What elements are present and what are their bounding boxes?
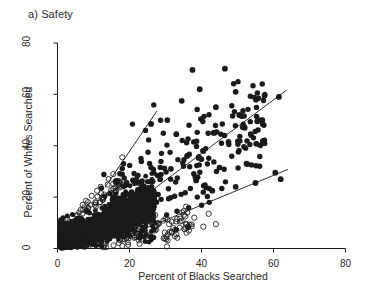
data-point-filled — [173, 131, 179, 137]
data-point-filled — [120, 166, 125, 171]
data-point-filled — [184, 153, 190, 159]
data-point-filled — [161, 130, 166, 135]
data-point-filled — [108, 222, 113, 227]
data-point-filled — [257, 154, 262, 159]
data-point-filled — [121, 161, 126, 166]
data-point-filled — [223, 179, 228, 184]
data-point-filled — [255, 127, 260, 132]
data-point-filled — [235, 165, 240, 170]
data-point-filled — [61, 231, 66, 236]
data-point-filled — [195, 130, 200, 135]
data-point-filled — [250, 83, 255, 88]
data-point-filled — [127, 163, 132, 168]
data-point-filled — [158, 172, 163, 177]
data-point-filled — [244, 138, 249, 143]
data-point-filled — [68, 235, 73, 240]
data-point-filled — [242, 125, 248, 131]
data-point-open — [192, 215, 197, 220]
data-point-filled — [195, 194, 200, 199]
data-point-filled — [219, 141, 224, 146]
data-point-filled — [93, 213, 98, 218]
data-point-filled — [154, 199, 159, 204]
data-point-filled — [173, 179, 178, 184]
data-point-filled — [158, 197, 163, 202]
data-point-filled — [145, 179, 150, 184]
figure-panel: a) Safety Percent of Whites Searched Per… — [0, 0, 371, 291]
data-point-filled — [260, 81, 265, 86]
data-point-filled — [126, 192, 131, 197]
data-point-filled — [200, 119, 205, 124]
data-point-filled — [127, 215, 132, 220]
data-point-filled — [245, 107, 250, 112]
data-point-filled — [236, 112, 242, 118]
data-point-filled — [121, 192, 126, 197]
data-point-filled — [254, 105, 259, 110]
data-point-filled — [193, 178, 199, 184]
data-point-filled — [168, 166, 174, 172]
data-point-filled — [261, 98, 266, 103]
data-point-filled — [262, 93, 268, 99]
data-point-filled — [139, 159, 144, 164]
data-point-filled — [140, 210, 145, 215]
data-point-filled — [159, 151, 164, 156]
data-point-filled — [233, 184, 239, 190]
data-point-filled — [237, 138, 242, 143]
data-point-open — [137, 241, 142, 246]
data-point-filled — [233, 123, 238, 128]
data-point-filled — [206, 112, 211, 117]
data-points — [57, 66, 283, 251]
data-point-filled — [157, 176, 163, 182]
data-point-filled — [166, 186, 171, 191]
data-point-filled — [179, 98, 185, 104]
data-point-filled — [101, 172, 106, 177]
data-point-filled — [233, 89, 239, 95]
data-point-filled — [164, 117, 170, 123]
data-point-filled — [99, 206, 104, 211]
data-point-open — [120, 243, 125, 248]
data-point-filled — [100, 223, 105, 228]
data-point-filled — [249, 162, 254, 167]
data-point-open — [201, 224, 206, 229]
data-point-filled — [235, 79, 240, 84]
data-point-filled — [186, 123, 191, 128]
data-point-filled — [211, 159, 216, 164]
data-point-filled — [219, 186, 224, 191]
data-point-filled — [130, 121, 135, 126]
data-point-filled — [183, 190, 188, 195]
data-point-filled — [222, 66, 228, 72]
data-point-filled — [166, 196, 171, 201]
data-point-filled — [230, 113, 235, 118]
data-point-filled — [167, 150, 172, 155]
data-point-filled — [135, 173, 140, 178]
data-point-filled — [191, 171, 196, 176]
data-point-filled — [213, 104, 219, 110]
data-point-filled — [248, 119, 253, 124]
data-point-filled — [191, 139, 196, 144]
data-point-filled — [229, 154, 234, 159]
data-point-filled — [226, 139, 232, 145]
data-point-filled — [256, 96, 261, 101]
data-point-filled — [158, 159, 163, 164]
data-point-filled — [190, 67, 196, 73]
data-point-filled — [70, 230, 75, 235]
data-point-filled — [201, 189, 206, 194]
data-point-filled — [237, 134, 242, 139]
data-point-filled — [209, 188, 215, 194]
data-point-open — [111, 243, 116, 248]
data-point-filled — [146, 137, 151, 142]
data-point-filled — [133, 214, 138, 219]
data-point-filled — [254, 114, 259, 119]
data-point-filled — [158, 117, 163, 122]
data-point-filled — [115, 196, 120, 201]
data-point-filled — [141, 189, 146, 194]
data-point-filled — [101, 214, 106, 219]
data-point-filled — [254, 118, 260, 124]
data-point-filled — [147, 198, 152, 203]
data-point-filled — [242, 113, 247, 118]
data-point-filled — [164, 142, 169, 147]
data-point-filled — [142, 202, 147, 207]
data-point-open — [213, 221, 218, 226]
data-point-filled — [152, 191, 157, 196]
data-point-filled — [197, 86, 203, 92]
data-point-filled — [213, 123, 218, 128]
